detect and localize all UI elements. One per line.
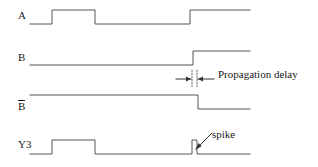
signal-label-a: A [18,10,26,21]
signal-label-b: B [18,52,25,63]
timing-diagram: A B B Y3 Propagation delay spike [0,0,318,167]
annotation-propagation-delay: Propagation delay [218,69,298,80]
waveform-b-bar [30,95,250,109]
signal-label-b-bar-text: B [18,100,25,112]
timing-waveform-canvas [0,0,318,167]
annotation-spike: spike [212,129,235,140]
signal-label-b-bar: B [18,100,25,112]
delay-arrowhead-right [198,77,203,82]
waveform-a [30,10,250,24]
waveform-y3 [30,140,250,154]
signal-label-y3: Y3 [18,139,31,150]
delay-arrowhead-left [186,77,191,82]
waveform-b [30,51,250,65]
